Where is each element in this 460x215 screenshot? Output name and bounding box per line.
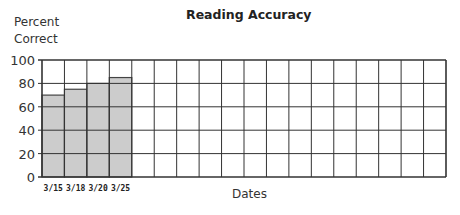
y-tick-label: 0 (27, 170, 35, 185)
x-tick-label: 3/18 (66, 184, 85, 193)
y-tick-label: 40 (18, 123, 35, 138)
y-tick-label: 100 (10, 53, 35, 68)
x-tick-label: 3/20 (88, 184, 107, 193)
x-tick-label: 3/25 (111, 184, 130, 193)
y-tick-label: 80 (18, 76, 35, 91)
x-tick-label: 3/15 (44, 184, 63, 193)
chart-plot-area: 0204060801003/153/183/203/25 (0, 0, 460, 215)
y-tick-label: 20 (18, 147, 35, 162)
bar (64, 89, 86, 177)
bar (42, 95, 64, 177)
y-tick-label: 60 (18, 100, 35, 115)
bar (109, 78, 131, 177)
